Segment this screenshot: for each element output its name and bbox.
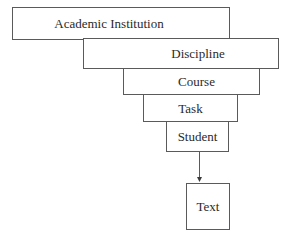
level-label: Academic Institution bbox=[54, 17, 187, 30]
level-task: Task bbox=[143, 94, 238, 122]
level-academic-institution: Academic Institution bbox=[12, 7, 230, 40]
level-label: Task bbox=[178, 102, 202, 115]
level-label: Discipline bbox=[137, 47, 224, 60]
level-student: Student bbox=[166, 121, 229, 152]
level-discipline: Discipline bbox=[83, 38, 279, 69]
level-label: Student bbox=[178, 130, 218, 143]
level-label: Course bbox=[168, 75, 215, 88]
arrowhead-icon bbox=[197, 177, 202, 182]
output-text-box: Text bbox=[186, 183, 230, 230]
output-label: Text bbox=[197, 200, 220, 213]
level-course: Course bbox=[123, 68, 260, 95]
